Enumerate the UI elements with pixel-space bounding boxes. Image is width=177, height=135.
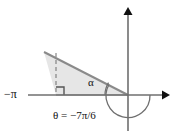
y-axis-arrow-icon <box>124 7 133 15</box>
axis-label-neg-pi: −π <box>4 88 17 100</box>
angle-label-theta-equation: θ = −7π/6 <box>53 110 96 121</box>
angle-label-alpha: α <box>88 77 94 88</box>
trig-figure-container: −π α θ = −7π/6 <box>0 0 177 135</box>
x-axis-arrow-icon <box>162 91 170 100</box>
